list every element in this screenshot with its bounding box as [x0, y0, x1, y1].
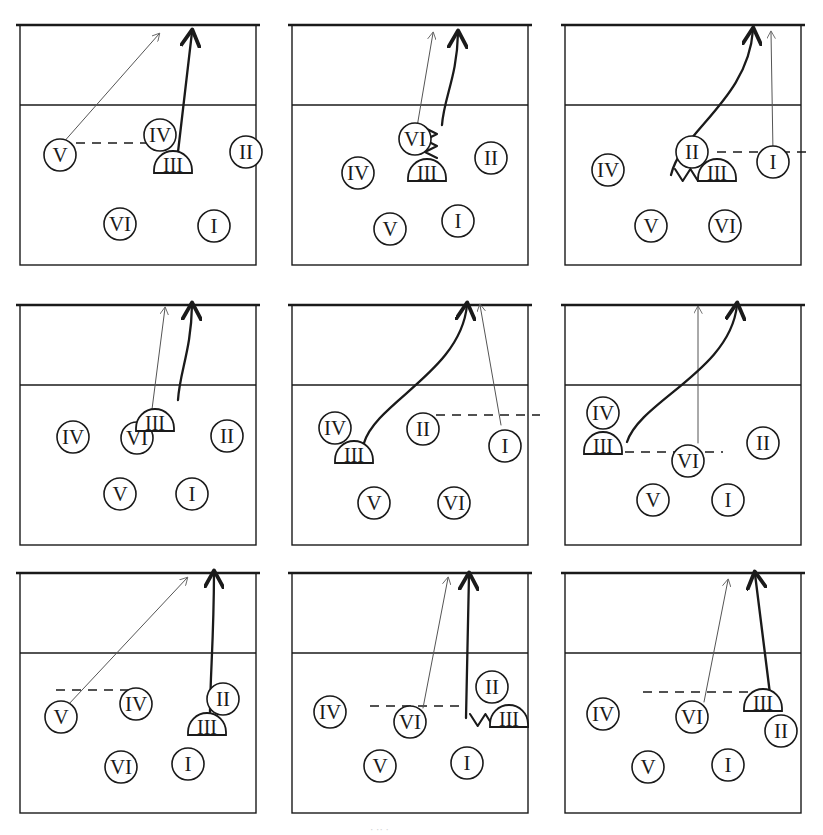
player-number-label: II: [216, 687, 230, 711]
player-marker-circle[interactable]: IV: [144, 119, 176, 151]
player-marker-circle[interactable]: II: [407, 413, 439, 445]
player-marker-circle[interactable]: IV: [592, 154, 624, 186]
player-marker-circle[interactable]: IV: [314, 696, 346, 728]
player-number-label: V: [643, 214, 658, 238]
player-marker-circle[interactable]: II: [747, 427, 779, 459]
player-number-label: III: [197, 716, 217, 738]
player-number-label: II: [484, 146, 498, 170]
player-marker-circle[interactable]: I: [712, 749, 744, 781]
diagram-canvas: VIVIIIIIVIIVIIIIIVIIVIIIIIIIIVVVIVIIIIIV…: [0, 0, 823, 835]
player-number-label: II: [416, 417, 430, 441]
player-number-label: I: [185, 752, 192, 776]
player-marker-circle[interactable]: VI: [399, 123, 431, 155]
player-marker-circle[interactable]: II: [230, 136, 262, 168]
player-number-label: IV: [597, 158, 619, 182]
player-number-label: VI: [404, 127, 426, 151]
player-number-label: I: [502, 434, 509, 458]
panel-8[interactable]: IVVIIIIIIVI: [288, 573, 532, 813]
panel-1[interactable]: VIVIIIIIVII: [16, 25, 262, 265]
player-marker-circle[interactable]: I: [442, 205, 474, 237]
player-marker-circle[interactable]: V: [45, 701, 77, 733]
player-number-label: VI: [109, 212, 131, 236]
player-marker-circle[interactable]: I: [451, 747, 483, 779]
player-number-label: IV: [319, 700, 341, 724]
player-marker-circle[interactable]: VI: [709, 210, 741, 242]
player-marker-circle[interactable]: IV: [587, 397, 619, 429]
player-marker-circle[interactable]: V: [358, 487, 390, 519]
player-marker-circle[interactable]: V: [632, 751, 664, 783]
player-marker-circle[interactable]: VI: [438, 487, 470, 519]
player-number-label: V: [382, 217, 397, 241]
player-marker-circle[interactable]: V: [635, 210, 667, 242]
panel-3[interactable]: IIIIIIIVVVI: [561, 25, 813, 265]
player-number-label: VI: [399, 710, 421, 734]
player-number-label: III: [593, 435, 613, 457]
player-number-label: V: [372, 754, 387, 778]
player-marker-circle[interactable]: IV: [319, 412, 351, 444]
player-marker-circle[interactable]: VI: [394, 706, 426, 738]
player-number-label: II: [756, 431, 770, 455]
player-marker-circle[interactable]: II: [211, 420, 243, 452]
player-marker-circle[interactable]: I: [198, 210, 230, 242]
player-number-label: IV: [347, 161, 369, 185]
player-number-label: II: [485, 675, 499, 699]
volleyball-diagram-sheet: · · · VIVIIIIIVIIVIIIIIVIIVIIIIIIIIVVVIV…: [0, 0, 823, 835]
player-marker-circle[interactable]: V: [374, 213, 406, 245]
player-marker-circle[interactable]: VI: [105, 751, 137, 783]
player-marker-circle[interactable]: IV: [587, 698, 619, 730]
player-marker-circle[interactable]: I: [172, 748, 204, 780]
player-marker-circle[interactable]: VI: [676, 701, 708, 733]
player-marker-circle[interactable]: IV: [57, 421, 89, 453]
panel-2[interactable]: VIIIIIVIIVI: [288, 25, 532, 265]
player-number-label: I: [211, 214, 218, 238]
player-number-label: I: [770, 150, 777, 174]
player-marker-circle[interactable]: VI: [104, 208, 136, 240]
player-number-label: I: [725, 488, 732, 512]
player-number-label: VI: [714, 214, 736, 238]
player-number-label: VI: [681, 705, 703, 729]
player-marker-circle[interactable]: I: [757, 146, 789, 178]
panel-grid: VIVIIIIIVIIVIIIIIVIIVIIIIIIIIVVVIVIIIIIV…: [0, 0, 823, 835]
panel-6[interactable]: IVIIIVIIIVI: [561, 305, 805, 545]
player-number-label: VI: [110, 755, 132, 779]
player-number-label: I: [189, 482, 196, 506]
panel-5[interactable]: IVIIIIIIVVI: [288, 305, 540, 545]
player-number-label: V: [366, 491, 381, 515]
player-number-label: VI: [677, 449, 699, 473]
player-number-label: IV: [125, 692, 147, 716]
player-marker-circle[interactable]: II: [765, 715, 797, 747]
player-number-label: III: [707, 162, 727, 184]
player-marker-circle[interactable]: II: [676, 136, 708, 168]
player-marker-circle[interactable]: V: [637, 484, 669, 516]
player-number-label: III: [344, 444, 364, 466]
player-number-label: IV: [62, 425, 84, 449]
footer-ghost-text: · ·· ·: [370, 824, 389, 835]
player-marker-circle[interactable]: II: [475, 142, 507, 174]
player-number-label: IV: [592, 401, 614, 425]
player-marker-circle[interactable]: V: [364, 750, 396, 782]
player-marker-circle[interactable]: I: [489, 430, 521, 462]
player-number-label: III: [163, 154, 183, 176]
player-number-label: I: [464, 751, 471, 775]
player-marker-circle[interactable]: VI: [672, 445, 704, 477]
player-number-label: II: [220, 424, 234, 448]
player-number-label: V: [52, 143, 67, 167]
panel-9[interactable]: IVVIIIIIIVI: [561, 573, 805, 813]
player-number-label: I: [725, 753, 732, 777]
player-number-label: IV: [149, 123, 171, 147]
player-number-label: V: [53, 705, 68, 729]
panel-4[interactable]: VIIIIIVIIVI: [16, 305, 260, 545]
player-marker-circle[interactable]: V: [104, 478, 136, 510]
player-number-label: III: [417, 162, 437, 184]
panel-7[interactable]: VIVIIIIIVII: [16, 573, 260, 813]
player-number-label: V: [640, 755, 655, 779]
player-marker-circle[interactable]: I: [176, 478, 208, 510]
player-marker-circle[interactable]: II: [476, 671, 508, 703]
player-number-label: II: [774, 719, 788, 743]
player-marker-circle[interactable]: IV: [342, 157, 374, 189]
player-marker-circle[interactable]: I: [712, 484, 744, 516]
player-marker-circle[interactable]: II: [207, 683, 239, 715]
player-marker-circle[interactable]: V: [44, 139, 76, 171]
player-number-label: II: [685, 140, 699, 164]
player-marker-circle[interactable]: IV: [120, 688, 152, 720]
